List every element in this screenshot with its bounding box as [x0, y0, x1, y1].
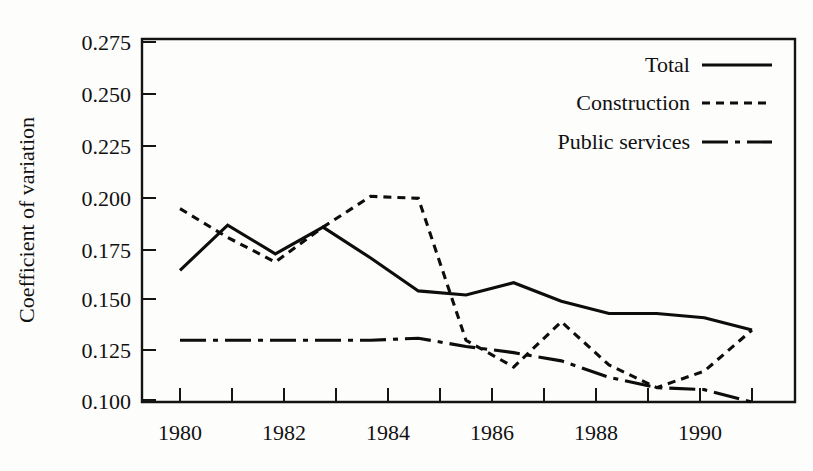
- legend-label-construction: Construction: [576, 90, 690, 115]
- x-tick-label: 1988: [574, 420, 618, 445]
- chart-figure: 0.275 0.250 0.225 0.200 0.175 0.150 0.12…: [0, 0, 813, 471]
- y-tick-label: 0.125: [82, 338, 132, 363]
- y-tick-label: 0.275: [82, 30, 132, 55]
- legend-label-public-services: Public services: [557, 129, 690, 154]
- y-axis-title: Coefficient of variation: [14, 117, 39, 323]
- x-tick-label: 1982: [262, 420, 306, 445]
- y-tick-label: 0.100: [82, 389, 132, 414]
- legend: Total Construction Public services: [557, 52, 772, 154]
- y-tick-label: 0.250: [82, 82, 132, 107]
- x-tick-marks: [180, 388, 752, 402]
- x-tick-label: 1984: [366, 420, 410, 445]
- x-tick-label: 1980: [158, 420, 202, 445]
- series-line-total: [180, 225, 752, 330]
- y-tick-label: 0.225: [82, 134, 132, 159]
- line-chart: 0.275 0.250 0.225 0.200 0.175 0.150 0.12…: [0, 0, 813, 471]
- x-tick-label: 1990: [678, 420, 722, 445]
- series-line-construction: [180, 196, 752, 387]
- x-tick-labels: 1980 1982 1984 1986 1988 1990: [158, 420, 722, 445]
- y-tick-label: 0.175: [82, 238, 132, 263]
- series-line-public-services: [180, 338, 752, 402]
- series-group: [180, 196, 752, 402]
- y-tick-label: 0.200: [82, 186, 132, 211]
- y-tick-marks: [142, 42, 156, 400]
- y-tick-labels: 0.275 0.250 0.225 0.200 0.175 0.150 0.12…: [82, 30, 132, 414]
- x-tick-label: 1986: [470, 420, 514, 445]
- legend-label-total: Total: [645, 52, 690, 77]
- y-tick-label: 0.150: [82, 287, 132, 312]
